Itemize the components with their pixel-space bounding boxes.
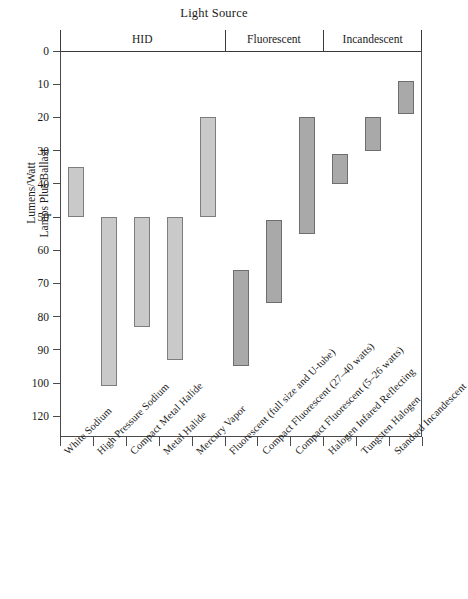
y-axis-tick-label: 50 — [38, 211, 50, 223]
x-axis-tick-mark — [93, 437, 94, 446]
y-axis-tick-mark — [53, 349, 60, 350]
y-axis-tick-mark — [53, 84, 60, 85]
x-axis-tick-mark — [257, 437, 258, 446]
group-label-hid: HID — [60, 33, 225, 45]
x-axis-tick-mark — [323, 437, 324, 446]
y-axis-tick-label: 80 — [38, 311, 50, 323]
y-axis-tick-mark — [53, 383, 60, 384]
bar-metal-halide — [167, 217, 183, 360]
y-axis-tick-mark — [53, 183, 60, 184]
y-axis-tick-label: 10 — [38, 78, 50, 90]
x-axis-tick-mark — [356, 437, 357, 446]
x-axis-tick-mark — [225, 437, 226, 446]
y-axis-tick-label: 120 — [32, 410, 49, 422]
y-axis-tick-label: 90 — [38, 344, 50, 356]
y-axis-tick-mark — [53, 117, 60, 118]
group-separator — [225, 30, 226, 51]
y-axis-tick-label: 60 — [38, 244, 50, 256]
chart-title: Light Source — [0, 6, 428, 21]
x-axis-tick-mark — [192, 437, 193, 446]
y-axis-tick-mark — [53, 217, 60, 218]
y-axis-tick-label: 40 — [38, 178, 50, 190]
x-axis-tick-mark — [126, 437, 127, 446]
group-separator — [421, 30, 422, 51]
x-axis-tick-mark — [389, 437, 390, 446]
y-axis-tick-label: 100 — [32, 377, 49, 389]
y-axis-tick-label: 70 — [38, 277, 50, 289]
y-axis-tick-mark — [53, 416, 60, 417]
bar-white-sodium — [68, 167, 84, 217]
y-axis-tick-mark — [53, 316, 60, 317]
bar-standard-incandescent — [398, 81, 414, 114]
group-label-incandescent: Incandescent — [323, 33, 422, 45]
group-separator — [323, 30, 324, 51]
y-axis-tick-mark — [53, 150, 60, 151]
bar-high-pressure-sodium — [101, 217, 117, 386]
y-axis-tick-label: 30 — [38, 145, 50, 157]
y-axis-tick-mark — [53, 51, 60, 52]
bar-compact-fluorescent-5-26-watts — [299, 117, 315, 233]
y-axis-title-line-1: Lumens/Watt — [25, 93, 38, 293]
y-axis-tick-mark — [53, 250, 60, 251]
y-axis-tick-mark — [53, 283, 60, 284]
bar-compact-fluorescent-27-40-watts — [266, 220, 282, 303]
bar-fluorescent-full-size-and-u-tube — [233, 270, 249, 366]
bar-halogen-infared-reflecting — [332, 154, 348, 184]
x-axis-tick-mark — [159, 437, 160, 446]
x-axis-tick-mark — [422, 437, 423, 446]
group-label-fluorescent: Fluorescent — [225, 33, 324, 45]
bar-compact-metal-halide — [134, 217, 150, 327]
group-separator — [60, 30, 61, 51]
x-axis-tick-mark — [60, 437, 61, 446]
y-axis-tick-label: 20 — [38, 111, 50, 123]
group-header-band: HIDFluorescentIncandescent — [60, 30, 422, 51]
y-axis-tick-label: 0 — [43, 45, 49, 57]
x-axis-tick-mark — [290, 437, 291, 446]
bar-mercury-vapor — [200, 117, 216, 217]
bar-tungsten-halogen — [365, 117, 381, 150]
